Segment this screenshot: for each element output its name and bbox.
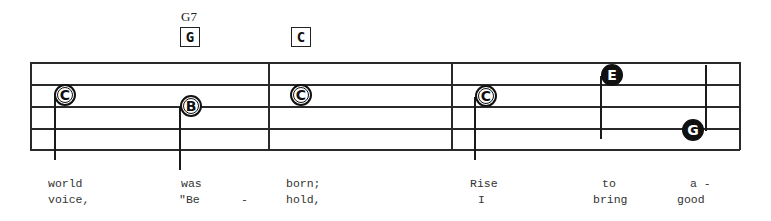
staff-line-4 xyxy=(30,128,740,130)
lyric: Rise xyxy=(470,177,498,190)
lyric: - xyxy=(241,193,248,206)
note-c-2: C xyxy=(290,84,312,106)
lyric: was xyxy=(181,177,202,190)
lyric: hold, xyxy=(286,193,321,206)
stem-note-4 xyxy=(474,97,476,160)
barline-2 xyxy=(451,62,453,150)
note-g: G xyxy=(682,119,704,141)
note-c-1: C xyxy=(54,84,76,106)
stem-note-2 xyxy=(179,107,181,170)
lyric: world xyxy=(48,177,83,190)
staff-line-3 xyxy=(30,106,740,108)
chord-box-c: C xyxy=(291,27,311,47)
stem-note-6 xyxy=(705,65,707,131)
staff-line-2 xyxy=(30,84,740,86)
lyric: voice, xyxy=(48,193,89,206)
chord-box-g: G xyxy=(180,27,200,47)
lyric: "Be xyxy=(179,193,200,206)
lyric: bring xyxy=(593,193,628,206)
note-e: E xyxy=(601,64,623,86)
barline-start xyxy=(30,62,32,150)
stem-note-1 xyxy=(54,96,56,160)
barline-1 xyxy=(268,62,270,150)
chord-name-g7: G7 xyxy=(181,9,197,25)
lyric: good xyxy=(677,193,705,206)
staff-line-5 xyxy=(30,149,740,151)
lyric: I xyxy=(478,193,485,206)
note-c-3: C xyxy=(475,85,497,107)
barline-end xyxy=(739,62,741,150)
lyric: born; xyxy=(286,177,321,190)
stem-note-5 xyxy=(600,76,602,139)
lyric: a - xyxy=(690,177,711,190)
note-b: B xyxy=(180,95,202,117)
lyric: to xyxy=(602,177,616,190)
staff-line-1 xyxy=(30,62,740,64)
